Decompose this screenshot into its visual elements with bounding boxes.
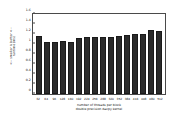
x-axis-ticks: 3264961281601922242562883203523844164484… bbox=[32, 96, 166, 103]
bar bbox=[108, 37, 113, 95]
y-axis-label-line-2: runtime (ms) bbox=[13, 36, 16, 56]
x-tick-label: 416 bbox=[132, 96, 140, 103]
y-tick-label: 1.2 bbox=[26, 28, 33, 32]
y-tick-label: 0.4 bbox=[26, 68, 33, 72]
y-tick-label: 0.8 bbox=[26, 48, 33, 52]
x-tick-label: 160 bbox=[67, 96, 75, 103]
bar-slot bbox=[139, 14, 147, 94]
bar-slot bbox=[91, 14, 99, 94]
x-tick-label: 64 bbox=[42, 96, 50, 103]
bar bbox=[132, 34, 137, 94]
bar-slot bbox=[43, 14, 51, 94]
bar bbox=[148, 30, 153, 94]
bar-chart-figure: <-- smaller is better <-- runtime (ms) 0… bbox=[0, 0, 172, 121]
bar bbox=[100, 37, 105, 95]
bar bbox=[156, 31, 161, 95]
bar-slot bbox=[131, 14, 139, 94]
bar bbox=[92, 37, 97, 94]
bar bbox=[68, 42, 73, 95]
bar bbox=[36, 36, 41, 95]
bar-slot bbox=[75, 14, 83, 94]
bar bbox=[44, 42, 49, 95]
bar bbox=[116, 36, 121, 94]
x-tick-label: 288 bbox=[99, 96, 107, 103]
bar-slot bbox=[123, 14, 131, 94]
x-tick-label: 128 bbox=[58, 96, 66, 103]
bar-slot bbox=[83, 14, 91, 94]
bar bbox=[60, 41, 65, 94]
x-tick-label: 352 bbox=[115, 96, 123, 103]
bar-slot bbox=[59, 14, 67, 94]
bar bbox=[76, 38, 81, 95]
x-tick-label: 32 bbox=[34, 96, 42, 103]
y-axis-label: <-- smaller is better <-- runtime (ms) bbox=[0, 0, 26, 98]
bar-slot bbox=[115, 14, 123, 94]
bar-slot bbox=[155, 14, 163, 94]
y-tick-label: 1.4 bbox=[26, 18, 33, 22]
x-tick-label: 96 bbox=[50, 96, 58, 103]
x-tick-label: 512 bbox=[156, 96, 164, 103]
bar-slot bbox=[147, 14, 155, 94]
x-tick-label: 384 bbox=[123, 96, 131, 103]
y-tick-label: 0.2 bbox=[26, 78, 33, 82]
x-axis-label-line-2: double precision daxpy kernel bbox=[32, 108, 166, 112]
x-tick-label: 320 bbox=[107, 96, 115, 103]
bar bbox=[124, 35, 129, 95]
x-tick-label: 256 bbox=[91, 96, 99, 103]
x-tick-label: 480 bbox=[148, 96, 156, 103]
bar-slot bbox=[67, 14, 75, 94]
x-tick-label: 448 bbox=[140, 96, 148, 103]
x-tick-label: 224 bbox=[83, 96, 91, 103]
x-axis-label: number of threads per block double preci… bbox=[32, 104, 166, 111]
bar bbox=[52, 42, 57, 94]
bar bbox=[84, 37, 89, 94]
y-tick-label: 0.6 bbox=[26, 58, 33, 62]
bar-slot bbox=[107, 14, 115, 94]
x-tick-label: 192 bbox=[75, 96, 83, 103]
y-tick-label: 1.6 bbox=[26, 8, 33, 12]
plot-area: 00.20.40.60.811.21.41.6 bbox=[32, 13, 166, 95]
bar-slot bbox=[51, 14, 59, 94]
bar bbox=[140, 34, 145, 95]
bar-slot bbox=[99, 14, 107, 94]
bar-slot bbox=[35, 14, 43, 94]
bar-series bbox=[33, 14, 165, 94]
